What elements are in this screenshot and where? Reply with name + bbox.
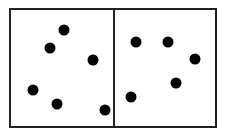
left-panel-dot: [88, 55, 99, 66]
left-panel-dot: [52, 99, 63, 110]
left-panel-dot: [28, 85, 39, 96]
right-panel: [113, 8, 217, 128]
left-panel-dot: [100, 105, 111, 116]
right-panel-dot: [190, 54, 201, 65]
right-panel-dot: [163, 37, 174, 48]
left-panel-dot: [59, 25, 70, 36]
right-panel-dot: [126, 92, 137, 103]
left-panel-dot: [45, 43, 56, 54]
right-panel-dot: [131, 37, 142, 48]
right-panel-dot: [171, 78, 182, 89]
